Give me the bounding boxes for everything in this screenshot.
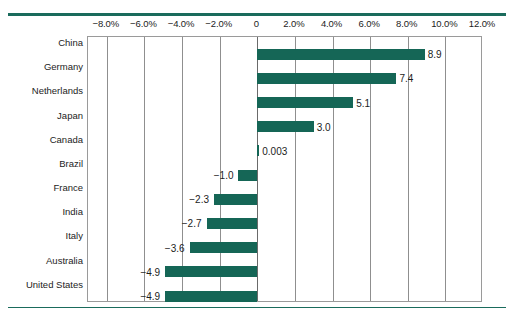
- bar: [257, 145, 259, 156]
- top-rule: [8, 13, 506, 16]
- category-label: China: [58, 37, 83, 48]
- chart-figure: −8.0%−6.0%−4.0%−2.0%02.0%4.0%6.0%8.0%10.…: [0, 0, 515, 324]
- bar-value-label: −1.0: [214, 170, 234, 181]
- x-tick-label: −8.0%: [92, 18, 119, 30]
- x-tick-label: 2.0%: [283, 18, 304, 30]
- bar-value-label: −4.9: [140, 291, 160, 302]
- category-label: Italy: [66, 230, 83, 241]
- bar: [257, 97, 353, 108]
- bar-value-label: −2.7: [182, 218, 202, 229]
- bar: [257, 49, 424, 60]
- bar-value-label: 3.0: [317, 122, 331, 133]
- bar: [214, 194, 257, 205]
- bar: [165, 291, 257, 302]
- bar-value-label: 8.9: [428, 49, 442, 60]
- bar: [207, 218, 258, 229]
- category-label: Japan: [57, 110, 83, 121]
- bar: [190, 242, 258, 253]
- x-tick-label: 0: [254, 18, 259, 30]
- x-tick-label: −6.0%: [130, 18, 157, 30]
- x-tick-label: −4.0%: [168, 18, 195, 30]
- category-label: United States: [26, 279, 83, 290]
- category-label: Germany: [44, 61, 83, 72]
- bar-series: 8.97.45.13.00.003−1.0−2.3−2.7−3.6−4.9−4.…: [88, 37, 481, 301]
- bar-value-label: 5.1: [356, 98, 370, 109]
- bar: [238, 170, 257, 181]
- bottom-rule: [8, 307, 506, 308]
- bar-value-label: 7.4: [399, 73, 413, 84]
- y-axis-category-labels: ChinaGermanyNetherlandsJapanCanadaBrazil…: [0, 36, 83, 302]
- bar-value-label: −3.6: [165, 243, 185, 254]
- category-label: France: [53, 182, 83, 193]
- bar: [165, 266, 257, 277]
- x-tick-label: 10.0%: [431, 18, 457, 30]
- category-label: India: [62, 206, 83, 217]
- category-label: Brazil: [59, 158, 83, 169]
- plot-area: 8.97.45.13.00.003−1.0−2.3−2.7−3.6−4.9−4.…: [87, 36, 482, 302]
- bar-value-label: 0.003: [262, 146, 287, 157]
- x-tick-label: 12.0%: [469, 18, 495, 30]
- category-label: Australia: [46, 255, 83, 266]
- x-tick-label: 4.0%: [321, 18, 342, 30]
- category-label: Canada: [50, 134, 83, 145]
- x-tick-label: 6.0%: [359, 18, 380, 30]
- category-label: Netherlands: [32, 85, 83, 96]
- x-tick-label: 8.0%: [396, 18, 417, 30]
- x-tick-label: −2.0%: [205, 18, 232, 30]
- bar-value-label: −2.3: [189, 194, 209, 205]
- bar: [257, 121, 313, 132]
- x-axis-tick-labels: −8.0%−6.0%−4.0%−2.0%02.0%4.0%6.0%8.0%10.…: [0, 18, 515, 32]
- bar: [257, 73, 396, 84]
- bar-value-label: −4.9: [140, 267, 160, 278]
